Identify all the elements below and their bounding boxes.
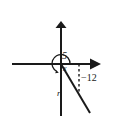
label-opposite-leg-neg-12: −12 xyxy=(81,73,97,83)
label-adjacent-leg-5: 5 xyxy=(62,51,67,61)
y-axis-arrowhead-icon xyxy=(56,21,67,28)
angle-diagram-canvas xyxy=(0,0,114,125)
x-axis-arrowhead-icon xyxy=(90,59,101,70)
angle-diagram-figure: 5 −12 r x xyxy=(0,0,114,125)
label-angle-x: x xyxy=(63,65,67,73)
label-hypotenuse-r: r xyxy=(57,89,61,98)
